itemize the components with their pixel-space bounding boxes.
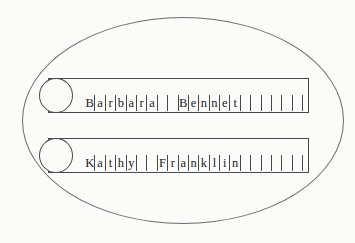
tape-cell: a	[127, 95, 137, 111]
tape-cell: y	[127, 155, 137, 171]
tape-1-cells: BarbaraBennet	[85, 95, 303, 111]
tape-cell	[272, 155, 282, 171]
tape-cell	[168, 95, 178, 111]
tape-cell	[262, 95, 272, 111]
tape-cell	[251, 95, 261, 111]
tape-cell: K	[85, 155, 95, 171]
tape-cell: r	[106, 95, 116, 111]
tape-2-cells: KathyFranklin	[85, 155, 303, 171]
tape-cell	[272, 95, 282, 111]
tape-1-end-circle-icon	[39, 78, 73, 113]
tape-cell: t	[230, 95, 240, 111]
tape-cell: B	[85, 95, 95, 111]
tape-cell: h	[116, 155, 126, 171]
tape-cell	[241, 155, 251, 171]
tape-cell: b	[116, 95, 126, 111]
tape-cell: n	[189, 155, 199, 171]
tape-cell: e	[189, 95, 199, 111]
tape-cell: k	[199, 155, 209, 171]
tape-cell: e	[220, 95, 230, 111]
tape-cell: l	[210, 155, 220, 171]
tape-cell: i	[220, 155, 230, 171]
tape-cell: t	[106, 155, 116, 171]
machine-oval	[22, 17, 344, 224]
tape-cell: a	[95, 95, 105, 111]
tape-cell	[158, 95, 168, 111]
tape-cell	[282, 155, 292, 171]
tape-cell	[137, 155, 147, 171]
tape-cell: n	[210, 95, 220, 111]
tape-cell	[282, 95, 292, 111]
tape-cell: F	[158, 155, 168, 171]
tape-cell: r	[137, 95, 147, 111]
tape-cell: n	[199, 95, 209, 111]
tape-cell	[251, 155, 261, 171]
tape-2-end-circle-icon	[39, 138, 73, 173]
tape-cell: n	[230, 155, 240, 171]
tape-cell: a	[147, 95, 157, 111]
tape-cell	[293, 155, 303, 171]
tape-cell	[147, 155, 157, 171]
tape-cell: a	[179, 155, 189, 171]
tape-cell: a	[95, 155, 105, 171]
tape-cell	[262, 155, 272, 171]
tape-cell	[241, 95, 251, 111]
two-tape-diagram: BarbaraBennet KathyFranklin	[0, 0, 355, 243]
tape-cell	[293, 95, 303, 111]
tape-cell: r	[168, 155, 178, 171]
tape-cell: B	[179, 95, 189, 111]
